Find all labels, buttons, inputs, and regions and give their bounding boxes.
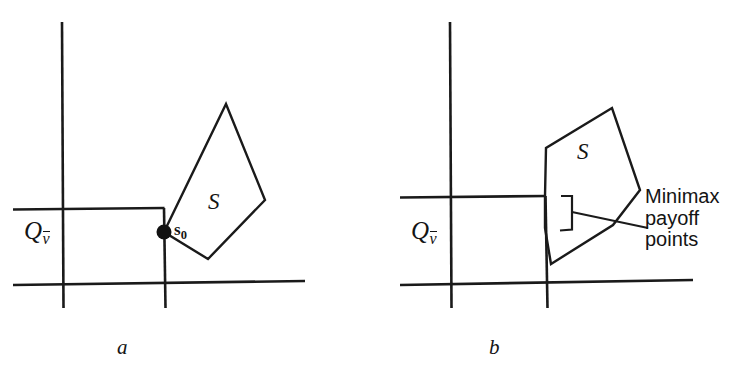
- panel-a-horizontal-axis-bottom: [13, 281, 305, 285]
- panel-b-callout-line-3: points: [645, 229, 719, 251]
- panel-a-point-label: s0: [174, 221, 187, 241]
- panel-a-point-s0-dot: [157, 225, 172, 240]
- panel-b-callout-line-2: payoff: [645, 208, 719, 230]
- panel-a-region-label-sub-overbar: v: [43, 230, 50, 247]
- panel-a-graphics: [13, 22, 305, 308]
- panel-b-minimax-bracket: [560, 196, 572, 231]
- panel-b-region-label-base: Q: [411, 217, 429, 244]
- panel-b-region-label: Qv: [411, 218, 437, 247]
- panel-a-region-boundary-top: [13, 208, 165, 210]
- panel-b-set-label: S: [577, 140, 589, 163]
- panel-a-vertical-axis-left: [62, 22, 64, 308]
- panel-b-region-label-sub-overbar: v: [430, 230, 437, 247]
- panel-a-caption: a: [117, 337, 128, 358]
- figure-container: Qv S s0 a Qv S Minimax payoff points b: [0, 0, 741, 379]
- panel-a-region-label-base: Q: [24, 217, 42, 244]
- panel-a-point-label-subscript: 0: [181, 228, 187, 242]
- panel-b-caption: b: [489, 337, 500, 358]
- panel-a-region-boundary-right: [164, 208, 166, 308]
- panel-a-set-label: S: [208, 190, 220, 213]
- panel-a-region-label-subscript: v: [43, 230, 50, 247]
- panel-b-set-polygon: [545, 108, 640, 264]
- panel-a-region-label: Qv: [24, 218, 50, 247]
- diagram-svg: [0, 0, 741, 379]
- panel-b-region-label-subscript: v: [430, 230, 437, 247]
- panel-b-callout-line-1: Minimax: [645, 186, 719, 208]
- panel-b-graphics: [400, 22, 693, 308]
- panel-b-callout-text: Minimax payoff points: [645, 186, 719, 251]
- panel-a-point-label-base: s: [174, 220, 181, 239]
- panel-b-vertical-axis-left: [450, 22, 452, 308]
- panel-b-region-boundary-top: [400, 196, 546, 198]
